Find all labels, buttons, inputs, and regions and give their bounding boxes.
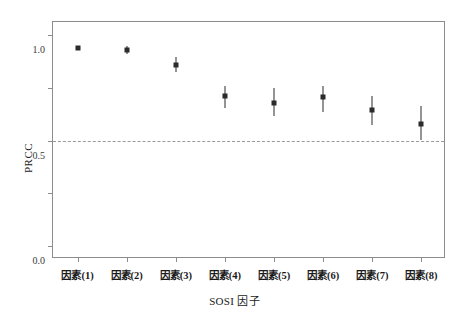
x-axis-tick [127, 257, 128, 262]
data-point-marker [321, 95, 326, 100]
data-point-marker [222, 94, 227, 99]
x-axis-tick [78, 257, 79, 262]
data-point-marker [75, 45, 80, 50]
y-axis-tick: -1.0 [48, 246, 53, 247]
x-axis-tick-label: 因素(8) [405, 267, 437, 282]
plot-area: 1.00.50.0-0.5-1.0因素(1)因素(2)因素(3)因素(4)因素(… [52, 21, 445, 258]
y-axis-tick-label: 0.0 [33, 255, 46, 266]
x-axis-title: SOSI 因子 [0, 292, 469, 308]
x-axis-tick [225, 257, 226, 262]
x-axis-tick-label: 因素(1) [61, 267, 93, 282]
figure-container: PRCC 1.00.50.0-0.5-1.0因素(1)因素(2)因素(3)因素(… [0, 0, 469, 316]
y-axis-tick: 1.0 [48, 35, 53, 36]
data-point-marker [124, 47, 129, 52]
x-axis-tick [274, 257, 275, 262]
x-axis-tick-label: 因素(2) [111, 267, 143, 282]
zero-reference-line [53, 141, 444, 142]
top-caption-fragment [8, 0, 258, 9]
y-axis-tick-label: 0.5 [33, 149, 46, 160]
x-axis-tick [372, 257, 373, 262]
x-axis-tick [176, 257, 177, 262]
x-axis-tick [421, 257, 422, 262]
x-axis-tick [323, 257, 324, 262]
x-axis-tick-label: 因素(3) [160, 267, 192, 282]
data-point-marker [272, 100, 277, 105]
data-point-marker [419, 121, 424, 126]
x-axis-tick-label: 因素(7) [356, 267, 388, 282]
y-axis-tick: -0.5 [48, 193, 53, 194]
x-axis-tick-label: 因素(5) [258, 267, 290, 282]
y-axis-tick-label: 1.0 [33, 44, 46, 55]
y-axis-tick: 0.5 [48, 88, 53, 89]
plot-inner: 1.00.50.0-0.5-1.0因素(1)因素(2)因素(3)因素(4)因素(… [53, 22, 444, 257]
data-point-marker [173, 62, 178, 67]
data-point-marker [370, 107, 375, 112]
x-axis-tick-label: 因素(4) [209, 267, 241, 282]
x-axis-tick-label: 因素(6) [307, 267, 339, 282]
